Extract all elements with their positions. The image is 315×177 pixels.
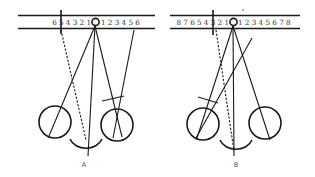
panel-label-a: A bbox=[82, 161, 87, 169]
scale-right-numbers-b: 1 2 3 4 5 6 7 8 bbox=[238, 18, 291, 27]
ray-center-a bbox=[88, 26, 95, 156]
scale-right-numbers-a: 1 2 3 4 5 6 bbox=[101, 18, 140, 27]
left-eye-b bbox=[187, 108, 219, 140]
nose-arc-a bbox=[70, 139, 102, 148]
ray-right-eye-b bbox=[233, 26, 270, 140]
diagram-canvas: 6 5 4 3 2 1 1 2 3 4 5 6 A 8 7 6 5 4 3 2 … bbox=[0, 0, 315, 177]
panel-label-b: B bbox=[234, 161, 238, 169]
panel-a: 6 5 4 3 2 1 1 2 3 4 5 6 A bbox=[18, 10, 155, 169]
right-eye-a bbox=[101, 109, 133, 141]
ray-left-eye-a bbox=[49, 26, 95, 136]
stray-dot bbox=[242, 9, 243, 10]
dashed-ray-a bbox=[61, 30, 86, 140]
fixation-light-b bbox=[230, 18, 237, 25]
fixation-light-a bbox=[92, 18, 99, 25]
scale-left-numbers-b: 8 7 6 5 4 3 2 1 bbox=[176, 18, 229, 27]
ray-scale-6-a bbox=[113, 30, 134, 138]
scale-left-numbers-a: 6 5 4 3 2 1 bbox=[52, 18, 91, 27]
dashed-ray-b bbox=[216, 30, 234, 151]
ray-right-eye-a bbox=[95, 26, 122, 137]
ray-center-b bbox=[233, 26, 234, 156]
panel-b: 8 7 6 5 4 3 2 1 1 2 3 4 5 6 7 8 B bbox=[170, 9, 300, 169]
nose-arc-b bbox=[220, 140, 252, 149]
